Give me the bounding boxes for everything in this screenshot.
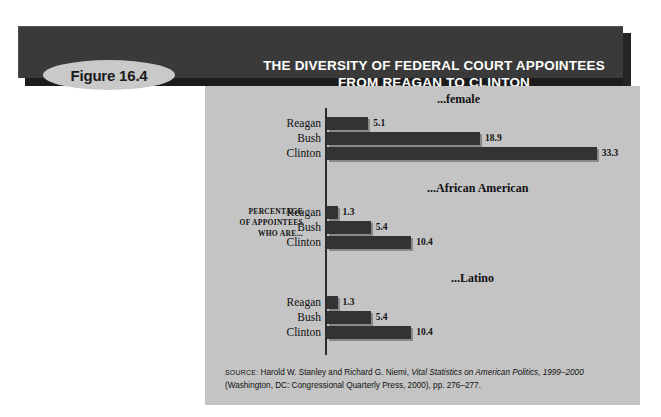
figure-header-bar: Figure 16.4 THE DIVERSITY OF FEDERAL COU… [18, 26, 623, 78]
bar-african-american-reagan [327, 206, 338, 219]
category-label-clinton: Clinton [205, 146, 321, 160]
bar-african-american-clinton [327, 236, 411, 249]
category-label-bush: Bush [205, 220, 321, 234]
bar-latino-bush [327, 311, 371, 324]
bar-row-female-bush: Bush 18.9 [205, 132, 640, 145]
source-authors: Harold W. Stanley and Richard G. Niemi, [258, 368, 409, 377]
bar-row-african-american-reagan: Reagan 1.3 [205, 206, 640, 219]
group-title-female: ...female [437, 92, 480, 107]
bar-female-clinton [327, 147, 597, 160]
bar-value-african-american-bush: 5.4 [376, 220, 388, 234]
category-label-bush: Bush [205, 131, 321, 145]
group-title-latino: ...Latino [451, 271, 494, 286]
figure-title-line-1: THE DIVERSITY OF FEDERAL COURT APPOINTEE… [234, 57, 634, 74]
category-label-clinton: Clinton [205, 325, 321, 339]
bar-value-african-american-clinton: 10.4 [416, 235, 433, 249]
bar-value-female-bush: 18.9 [485, 131, 502, 145]
bar-row-african-american-bush: Bush 5.4 [205, 221, 640, 234]
bar-female-bush [327, 132, 480, 145]
bar-value-female-clinton: 33.3 [602, 146, 619, 160]
bar-value-latino-reagan: 1.3 [343, 295, 355, 309]
source-note-line-2: (Washington, DC: Congressional Quarterly… [225, 380, 625, 393]
source-note-line-1: SOURCE: Harold W. Stanley and Richard G.… [225, 367, 625, 380]
bar-row-latino-bush: Bush 5.4 [205, 311, 640, 324]
category-label-reagan: Reagan [205, 205, 321, 219]
bar-value-latino-clinton: 10.4 [416, 325, 433, 339]
group-title-african-american: ...African American [427, 181, 528, 196]
source-note: SOURCE: Harold W. Stanley and Richard G.… [225, 367, 625, 392]
bar-value-female-reagan: 5.1 [373, 116, 385, 130]
bar-row-african-american-clinton: Clinton 10.4 [205, 236, 640, 249]
bar-row-female-clinton: Clinton 33.3 [205, 147, 640, 160]
bar-row-latino-reagan: Reagan 1.3 [205, 296, 640, 309]
chart-panel: PERCENTAGE OF APPOINTEES WHO ARE... ...f… [205, 86, 640, 405]
bar-latino-reagan [327, 296, 338, 309]
bar-row-latino-clinton: Clinton 10.4 [205, 326, 640, 339]
bar-latino-clinton [327, 326, 411, 339]
figure-number-label: Figure 16.4 [71, 67, 148, 84]
category-label-clinton: Clinton [205, 235, 321, 249]
source-prefix: SOURCE: [225, 369, 258, 376]
category-label-bush: Bush [205, 310, 321, 324]
bar-african-american-bush [327, 221, 371, 234]
category-label-reagan: Reagan [205, 295, 321, 309]
figure-number-badge: Figure 16.4 [43, 60, 175, 90]
bar-row-female-reagan: Reagan 5.1 [205, 117, 640, 130]
bar-value-latino-bush: 5.4 [376, 310, 388, 324]
source-publication-title: Vital Statistics on American Politics, 1… [409, 368, 584, 377]
bar-female-reagan [327, 117, 368, 130]
category-label-reagan: Reagan [205, 116, 321, 130]
bar-value-african-american-reagan: 1.3 [343, 205, 355, 219]
